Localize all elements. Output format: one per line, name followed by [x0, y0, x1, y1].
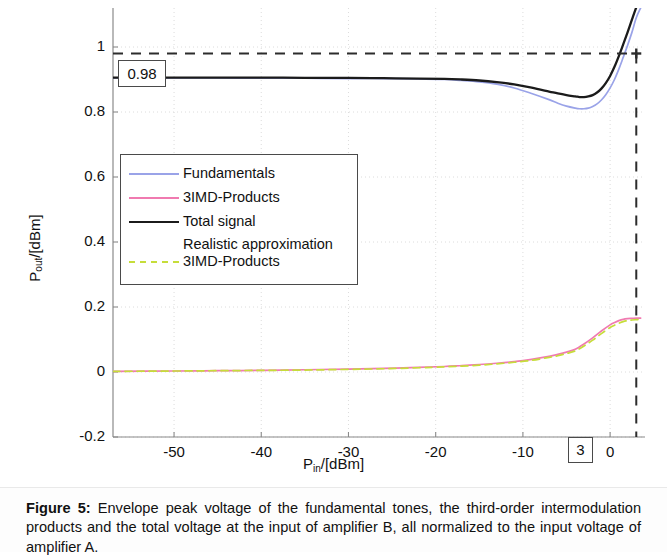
- x-axis-title-sub: in: [313, 463, 321, 474]
- x-axis-title-rest: /[dBm]: [321, 455, 364, 472]
- y-tick-label: 0.8: [55, 102, 105, 119]
- y-axis-title: Pout/[dBm]: [24, 178, 46, 318]
- y-tick-label: 0: [55, 362, 105, 379]
- y-value-annotation: 0.98: [118, 60, 166, 87]
- caption-text: Envelope peak voltage of the fundamental…: [26, 500, 641, 555]
- y-axis-title-rest: /[dBm]: [26, 214, 43, 257]
- legend-item: Total signal: [125, 210, 351, 234]
- legend-swatch: [125, 210, 183, 234]
- x-axis-title-main: P: [303, 455, 313, 472]
- legend-label: Total signal: [183, 210, 256, 230]
- y-tick-label: 0.6: [55, 167, 105, 184]
- y-axis-title-sub: out: [33, 258, 44, 272]
- legend-label: Fundamentals: [183, 162, 275, 182]
- legend-label: 3IMD-Products: [183, 186, 280, 206]
- legend-swatch: [125, 234, 183, 276]
- legend-swatch: [125, 186, 183, 210]
- y-tick-label: -0.2: [55, 427, 105, 444]
- chart-legend: Fundamentals3IMD-ProductsTotal signalRea…: [120, 154, 358, 285]
- legend-label: Realistic approximation3IMD-Products: [183, 234, 333, 270]
- legend-item: 3IMD-Products: [125, 186, 351, 210]
- caption-divider: [0, 487, 667, 488]
- legend-item: Realistic approximation3IMD-Products: [125, 234, 351, 276]
- figure-caption: Figure 5: Envelope peak voltage of the f…: [0, 487, 667, 552]
- caption-label: Figure 5:: [26, 500, 91, 516]
- series-line: [113, 2, 639, 98]
- y-tick-label: 1: [55, 37, 105, 54]
- x-value-annotation: 3: [568, 437, 593, 463]
- y-tick-label: 0.4: [55, 232, 105, 249]
- y-axis-title-main: P: [26, 272, 43, 282]
- series-line: [113, 318, 641, 371]
- legend-line-sample: [129, 173, 179, 175]
- legend-swatch: [125, 162, 183, 186]
- legend-item: Fundamentals: [125, 162, 351, 186]
- series-line: [113, 319, 641, 371]
- x-axis-title: Pin/[dBm]: [0, 455, 667, 474]
- legend-line-sample: [129, 197, 179, 199]
- legend-line-sample: [129, 261, 179, 263]
- chart-figure: -0.200.20.40.60.81 -50-40-30-20-100 Pout…: [0, 0, 667, 487]
- y-tick-label: 0.2: [55, 297, 105, 314]
- legend-line-sample: [129, 221, 179, 223]
